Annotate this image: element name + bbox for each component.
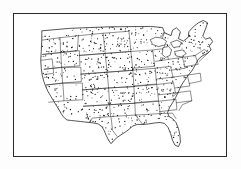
density-dot — [51, 51, 52, 52]
density-dot — [89, 138, 90, 139]
density-dot — [92, 93, 93, 94]
density-dot — [49, 40, 50, 41]
density-dot — [93, 106, 94, 107]
density-dot — [65, 149, 66, 150]
density-dot — [110, 102, 111, 103]
density-dot — [143, 123, 144, 124]
density-dot — [110, 66, 111, 67]
density-dot — [77, 55, 78, 56]
density-dot — [139, 74, 140, 75]
density-dot — [213, 139, 214, 140]
density-dot — [188, 110, 189, 111]
density-dot — [51, 100, 52, 101]
density-dot — [160, 69, 161, 70]
density-dot — [56, 80, 57, 81]
density-dot — [187, 99, 188, 100]
density-dot — [200, 98, 201, 99]
density-dot — [111, 100, 112, 101]
density-dot — [54, 78, 55, 79]
density-dot — [126, 114, 127, 115]
density-dot — [148, 110, 149, 111]
density-dot — [125, 138, 126, 139]
density-dot — [198, 128, 199, 129]
density-dot — [127, 108, 128, 109]
density-dot — [92, 23, 93, 24]
density-dot — [119, 137, 120, 138]
density-dot — [129, 74, 130, 75]
density-dot — [183, 95, 184, 96]
density-dot — [121, 41, 122, 42]
density-dot — [166, 119, 167, 120]
density-dot — [199, 131, 200, 132]
density-dot — [129, 56, 130, 57]
density-dot — [123, 69, 124, 70]
density-dot — [39, 56, 40, 57]
density-dot — [189, 138, 190, 139]
density-dot — [78, 134, 79, 135]
density-dot — [93, 147, 94, 148]
density-dot — [98, 134, 99, 135]
density-dot — [188, 91, 189, 92]
density-dot — [105, 35, 106, 36]
density-dot — [201, 112, 202, 113]
density-dot — [94, 112, 95, 113]
density-dot — [105, 127, 106, 128]
density-dot — [74, 137, 75, 138]
density-dot — [67, 102, 68, 103]
state-boundary-line — [107, 70, 134, 88]
density-dot — [152, 87, 153, 88]
density-dot — [124, 93, 125, 94]
density-dot — [129, 101, 130, 102]
density-dot — [202, 91, 203, 92]
density-dot — [148, 91, 149, 92]
density-dot — [162, 90, 163, 91]
density-dot — [141, 43, 142, 44]
density-dot — [148, 77, 149, 78]
density-dot — [95, 110, 96, 111]
density-dot — [61, 51, 62, 52]
density-dot — [165, 139, 166, 140]
density-dot — [107, 123, 108, 124]
state-boundary-line — [111, 118, 117, 137]
density-dot — [175, 79, 176, 80]
density-dot — [92, 127, 93, 128]
state-boundary-line — [131, 50, 155, 68]
density-dot — [70, 137, 71, 138]
density-dot — [71, 148, 72, 149]
density-dot — [63, 110, 64, 111]
density-dot — [89, 30, 90, 31]
density-dot — [108, 122, 109, 123]
density-dot — [106, 74, 107, 75]
density-dot — [171, 83, 172, 84]
density-dot — [143, 115, 144, 116]
density-dot — [196, 106, 197, 107]
density-dot — [141, 128, 142, 129]
density-dot — [164, 116, 165, 117]
density-dot — [110, 22, 111, 23]
density-dot — [193, 142, 194, 143]
density-dot — [124, 112, 125, 113]
density-dot — [170, 89, 171, 90]
density-dot — [205, 60, 206, 61]
density-dot — [189, 119, 190, 120]
density-dot — [179, 125, 180, 126]
density-dot — [120, 25, 121, 26]
density-dot — [210, 130, 211, 131]
density-dot — [54, 89, 55, 90]
density-dot — [48, 51, 49, 52]
density-dot — [39, 60, 40, 61]
density-dot — [118, 37, 119, 38]
density-dot — [151, 146, 152, 147]
density-dot — [126, 116, 127, 117]
density-dot — [126, 43, 127, 44]
density-dot — [72, 30, 73, 31]
state-boundary-line — [135, 101, 160, 115]
density-dot — [152, 135, 153, 136]
density-dot — [164, 58, 165, 59]
density-dot — [108, 67, 109, 68]
density-dot — [167, 44, 168, 45]
density-dot — [95, 121, 96, 122]
density-dot — [172, 146, 173, 147]
density-dot — [185, 147, 186, 148]
density-dot — [85, 63, 86, 64]
